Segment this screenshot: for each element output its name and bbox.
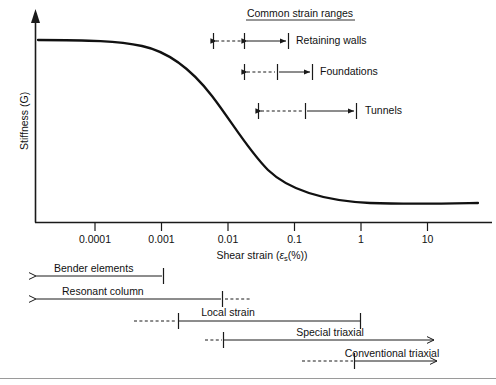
bottom-divider [0,378,496,379]
technique-label-local-strain: Local strain [201,307,255,318]
range-label-retaining-walls: Retaining walls [296,35,367,46]
axis-group [31,9,492,231]
common-strain-ranges-header: Common strain ranges [247,8,353,19]
range-bar-retaining-walls [214,33,289,49]
range-label-foundations: Foundations [320,66,378,77]
x-axis-title-suffix: (%)) [288,249,308,261]
x-tick-label-5: 10 [422,234,434,245]
x-tick-label-2: 0.01 [218,234,238,245]
technique-label-special-triaxial: Special triaxial [296,327,364,338]
stiffness-degradation-curve [38,40,478,204]
range-bar-tunnels [259,103,357,119]
technique-label-resonant-column: Resonant column [62,286,144,297]
range-label-tunnels: Tunnels [365,105,402,116]
x-tick-label-1: 0.001 [148,234,174,245]
stiffness-curve-group [38,40,478,204]
figure-vector-layer [0,0,496,385]
x-axis-title-prefix: Shear strain ( [216,249,279,261]
y-axis-title: Stiffness (G) [18,92,30,150]
x-axis-title: Shear strain (εs(%)) [216,250,307,263]
x-tick-label-3: 0.1 [287,234,302,245]
technique-label-bender-elements: Bender elements [54,263,133,274]
x-tick-label-4: 1 [358,234,364,245]
x-tick-label-0: 0.0001 [79,234,111,245]
range-bar-foundations [245,64,313,80]
x-axis-ticks [95,223,428,232]
y-axis-arrowhead [31,9,40,23]
stiffness-degradation-figure: Stiffness (G) 0.0001 0.001 0.01 0.1 1 10… [0,0,496,385]
technique-label-conventional-triaxial: Conventional triaxial [345,348,440,359]
